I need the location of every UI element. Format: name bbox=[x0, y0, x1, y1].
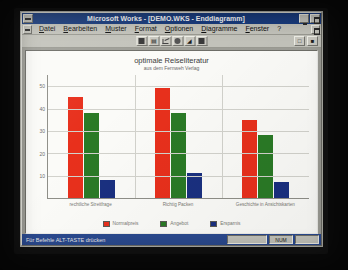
legend-item-angebot[interactable]: Angebot bbox=[160, 221, 188, 227]
legend-item-ersparnis[interactable]: Ersparnis bbox=[210, 221, 240, 227]
maximize-button[interactable] bbox=[310, 14, 320, 23]
window-title: Microsoft Works - [DEMO.WKS - Enddiagram… bbox=[33, 14, 299, 23]
chart-title: optimale Reiseliteratur bbox=[26, 56, 317, 65]
bar-angebot-1[interactable] bbox=[171, 113, 186, 198]
photograph-of-monitor: Microsoft Works - [DEMO.WKS - Enddiagram… bbox=[0, 0, 348, 270]
y-axis-tick-10: 10 bbox=[39, 174, 45, 179]
combo-chart-button[interactable] bbox=[196, 36, 207, 46]
status-indicators: NUM bbox=[227, 235, 319, 244]
chart-legend: NormalpreisAngebotErsparnis bbox=[26, 221, 317, 227]
zoom-out-button[interactable]: □ bbox=[294, 36, 305, 46]
plot-area-wrapper: 5040302010 rechtliche StreitfrageRichtig… bbox=[26, 75, 317, 233]
title-bar: Microsoft Works - [DEMO.WKS - Enddiagram… bbox=[22, 13, 321, 24]
category-separator bbox=[135, 75, 136, 198]
gridline-30 bbox=[48, 131, 309, 132]
legend-label-normalpreis: Normalpreis bbox=[113, 221, 139, 227]
document-system-menu-icon[interactable] bbox=[23, 25, 32, 34]
x-axis-label-2: Geschichte in Ansichtskarten bbox=[222, 201, 309, 211]
x-axis-labels: rechtliche StreitfrageRichtig PackenGesc… bbox=[47, 201, 309, 211]
status-bar: Für Befehle ALT-TASTE drücken NUM bbox=[22, 234, 321, 245]
status-cell-2 bbox=[295, 235, 319, 244]
gridline-50 bbox=[48, 86, 309, 87]
y-axis-tick-50: 50 bbox=[39, 84, 45, 89]
bar-groups bbox=[48, 75, 309, 198]
chart-subtitle: aus dem Fernweh Verlag bbox=[26, 65, 317, 72]
legend-label-ersparnis: Ersparnis bbox=[220, 221, 240, 227]
y-axis-tick-30: 30 bbox=[39, 129, 45, 134]
menu-item-help[interactable]: ? bbox=[273, 24, 285, 34]
gridline-10 bbox=[48, 176, 309, 177]
line-chart-button[interactable] bbox=[160, 36, 171, 46]
system-menu-icon[interactable] bbox=[23, 14, 33, 23]
bar-group bbox=[222, 75, 309, 198]
gridline-40 bbox=[48, 109, 309, 110]
menu-bar: Datei Bearbeiten Muster Format Optionen … bbox=[22, 24, 321, 35]
legend-swatch-ersparnis bbox=[210, 221, 217, 227]
menu-item-optionen[interactable]: Optionen bbox=[161, 24, 197, 34]
legend-swatch-angebot bbox=[160, 221, 167, 227]
x-axis-label-1: Richtig Packen bbox=[134, 201, 221, 211]
legend-swatch-normalpreis bbox=[103, 221, 110, 227]
category-separator bbox=[222, 75, 223, 198]
bar-ersparnis-2[interactable] bbox=[274, 182, 289, 198]
y-axis: 5040302010 bbox=[30, 75, 46, 199]
minimize-button[interactable] bbox=[299, 14, 309, 23]
status-message: Für Befehle ALT-TASTE drücken bbox=[24, 237, 105, 243]
y-axis-tick-20: 20 bbox=[39, 151, 45, 156]
bar-ersparnis-1[interactable] bbox=[187, 173, 202, 198]
toolbar: ▤ ◢ □ ■ bbox=[22, 35, 321, 48]
bar-normalpreis-1[interactable] bbox=[155, 88, 170, 198]
window-buttons bbox=[299, 14, 320, 23]
bar-group bbox=[48, 75, 135, 198]
bar-angebot-0[interactable] bbox=[84, 113, 99, 198]
document-client-area: optimale Reiseliteratur aus dem Fernweh … bbox=[22, 48, 321, 234]
x-axis-label-0: rechtliche Streitfrage bbox=[47, 201, 134, 211]
document-restore-button[interactable] bbox=[311, 25, 320, 34]
area-chart-button[interactable]: ◢ bbox=[184, 36, 195, 46]
plot-area bbox=[47, 75, 309, 199]
status-cell-num: NUM bbox=[269, 235, 293, 244]
zoom-in-button[interactable]: ■ bbox=[307, 36, 318, 46]
bar-chart-button[interactable] bbox=[136, 36, 147, 46]
bar-ersparnis-0[interactable] bbox=[100, 180, 115, 198]
menu-item-bearbeiten[interactable]: Bearbeiten bbox=[59, 24, 101, 34]
menu-item-fenster[interactable]: Fenster bbox=[241, 24, 273, 34]
status-cell-0 bbox=[227, 235, 267, 244]
menu-item-format[interactable]: Format bbox=[131, 24, 161, 34]
chart-type-button-group: ▤ ◢ bbox=[136, 36, 207, 46]
application-window: Microsoft Works - [DEMO.WKS - Enddiagram… bbox=[21, 12, 322, 246]
bar-angebot-2[interactable] bbox=[258, 135, 273, 198]
menu-item-diagramme[interactable]: Diagramme bbox=[197, 24, 241, 34]
legend-label-angebot: Angebot bbox=[170, 221, 188, 227]
y-axis-tick-40: 40 bbox=[39, 106, 45, 111]
stacked-bar-chart-button[interactable]: ▤ bbox=[148, 36, 159, 46]
menu-item-muster[interactable]: Muster bbox=[101, 24, 130, 34]
menu-item-datei[interactable]: Datei bbox=[35, 24, 59, 34]
bar-normalpreis-0[interactable] bbox=[68, 97, 83, 198]
chart-canvas[interactable]: optimale Reiseliteratur aus dem Fernweh … bbox=[25, 50, 318, 234]
crt-screen: Microsoft Works - [DEMO.WKS - Enddiagram… bbox=[20, 11, 323, 247]
gridline-20 bbox=[48, 153, 309, 154]
pie-chart-button[interactable] bbox=[172, 36, 183, 46]
bar-group bbox=[135, 75, 222, 198]
zoom-button-group: □ ■ bbox=[294, 36, 318, 46]
legend-item-normalpreis[interactable]: Normalpreis bbox=[103, 221, 139, 227]
